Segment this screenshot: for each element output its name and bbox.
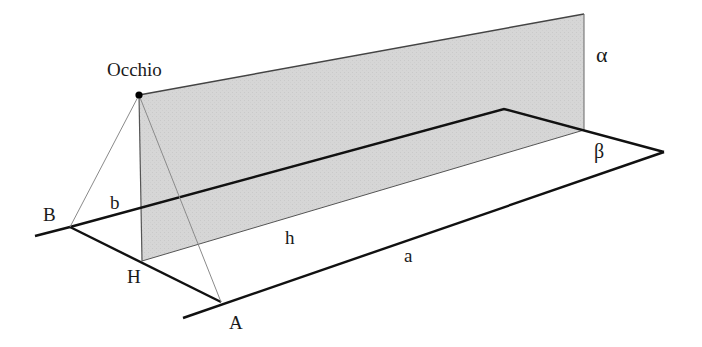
label-B: B bbox=[43, 205, 56, 224]
label-H: H bbox=[127, 267, 141, 286]
label-A: A bbox=[229, 313, 243, 332]
label-a: a bbox=[404, 246, 412, 265]
label-eye: Occhio bbox=[107, 60, 162, 79]
label-beta: β bbox=[594, 141, 604, 161]
label-alpha: α bbox=[596, 44, 608, 66]
sight-line-to-B bbox=[70, 95, 139, 227]
picture-plane-alpha bbox=[139, 14, 584, 261]
perspective-diagram: Occhio α β B b H h a A bbox=[0, 0, 702, 347]
eye-point bbox=[135, 91, 142, 98]
label-h: h bbox=[285, 228, 295, 247]
label-b: b bbox=[110, 193, 120, 212]
